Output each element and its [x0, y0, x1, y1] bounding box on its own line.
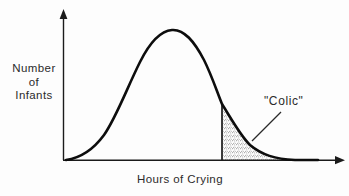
y-axis-label-line-2: of	[29, 76, 39, 88]
colic-annotation-label: "Colic"	[264, 94, 303, 108]
x-axis-label: Hours of Crying	[104, 173, 256, 185]
y-axis-label-line-1: Number	[12, 62, 55, 74]
colic-leader-line	[252, 112, 281, 141]
y-axis-label: NumberofInfants	[6, 62, 62, 103]
y-axis-label-line-3: Infants	[15, 89, 52, 101]
crying-distribution-figure: NumberofInfants Hours of Crying "Colic"	[0, 0, 349, 196]
